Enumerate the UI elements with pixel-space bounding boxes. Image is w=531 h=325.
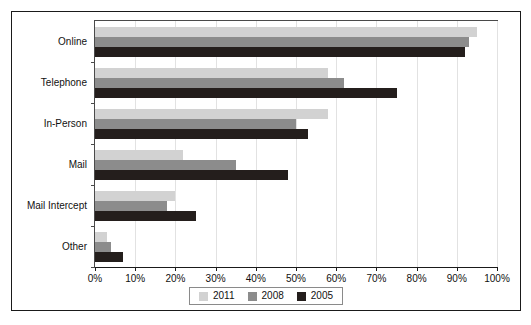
x-axis-label: 90% xyxy=(447,274,467,284)
gridline xyxy=(256,21,257,267)
bar-online-2005 xyxy=(95,47,465,57)
y-axis-tick xyxy=(91,226,95,227)
x-axis-label: 70% xyxy=(366,274,386,284)
bar-online-2008 xyxy=(95,37,469,47)
legend-swatch-icon xyxy=(248,292,257,301)
bar-mail-2008 xyxy=(95,160,236,170)
x-axis-tick xyxy=(417,267,418,271)
x-axis-label: 10% xyxy=(125,274,145,284)
legend-entry-2008[interactable]: 2008 xyxy=(248,291,284,301)
bar-telephone-2008 xyxy=(95,78,344,88)
x-axis-tick xyxy=(376,267,377,271)
y-axis-tick xyxy=(91,62,95,63)
x-axis-label: 50% xyxy=(286,274,306,284)
y-axis-tick xyxy=(91,144,95,145)
x-axis-label: 40% xyxy=(246,274,266,284)
bar-other-2011 xyxy=(95,232,107,242)
x-axis-label: 80% xyxy=(407,274,427,284)
bar-in-person-2005 xyxy=(95,129,308,139)
bar-mail-intercept-2005 xyxy=(95,211,196,221)
bar-mail-2005 xyxy=(95,170,288,180)
gridline xyxy=(296,21,297,267)
legend-label: 2008 xyxy=(262,291,284,301)
gridline xyxy=(135,21,136,267)
chart-figure: OnlineTelephoneIn-PersonMailMail Interce… xyxy=(11,11,521,311)
y-axis-label-mail-intercept: Mail Intercept xyxy=(27,201,87,211)
gridline xyxy=(417,21,418,267)
x-axis-tick xyxy=(95,267,96,271)
legend-label: 2005 xyxy=(311,291,333,301)
gridline xyxy=(376,21,377,267)
y-axis-tick xyxy=(91,185,95,186)
legend-swatch-icon xyxy=(199,292,208,301)
x-axis-tick xyxy=(497,267,498,271)
bar-in-person-2011 xyxy=(95,109,328,119)
chart-legend: 201120082005 xyxy=(189,287,343,305)
bar-group xyxy=(95,27,497,57)
legend-swatch-icon xyxy=(297,292,306,301)
gridline xyxy=(457,21,458,267)
x-axis-tick xyxy=(457,267,458,271)
legend-entry-2011[interactable]: 2011 xyxy=(199,291,235,301)
y-axis-label-in-person: In-Person xyxy=(44,119,87,129)
bar-online-2011 xyxy=(95,27,477,37)
legend-label: 2011 xyxy=(213,291,235,301)
bar-group xyxy=(95,68,497,98)
x-axis-label: 20% xyxy=(165,274,185,284)
x-axis-label: 60% xyxy=(326,274,346,284)
bar-other-2008 xyxy=(95,242,111,252)
y-axis-label-other: Other xyxy=(62,242,87,252)
x-axis-tick xyxy=(175,267,176,271)
y-axis-label-online: Online xyxy=(58,37,87,47)
x-axis-tick xyxy=(216,267,217,271)
gridline xyxy=(497,21,498,267)
bar-group xyxy=(95,109,497,139)
bar-group xyxy=(95,150,497,180)
gridline xyxy=(175,21,176,267)
x-axis-label: 30% xyxy=(206,274,226,284)
y-axis-label-mail: Mail xyxy=(69,160,87,170)
bar-other-2005 xyxy=(95,252,123,262)
gridline xyxy=(216,21,217,267)
y-axis-tick xyxy=(91,103,95,104)
legend-entry-2005[interactable]: 2005 xyxy=(297,291,333,301)
bar-group xyxy=(95,191,497,221)
gridline xyxy=(336,21,337,267)
bar-mail-intercept-2011 xyxy=(95,191,175,201)
bar-in-person-2008 xyxy=(95,119,296,129)
bar-group xyxy=(95,232,497,262)
bar-mail-intercept-2008 xyxy=(95,201,167,211)
x-axis-label: 100% xyxy=(484,274,510,284)
bar-telephone-2005 xyxy=(95,88,397,98)
bar-mail-2011 xyxy=(95,150,183,160)
y-axis-label-telephone: Telephone xyxy=(41,78,87,88)
plot-area: OnlineTelephoneIn-PersonMailMail Interce… xyxy=(94,20,498,268)
x-axis-tick xyxy=(135,267,136,271)
x-axis-tick xyxy=(336,267,337,271)
x-axis-tick xyxy=(296,267,297,271)
x-axis-label: 0% xyxy=(88,274,102,284)
bar-telephone-2011 xyxy=(95,68,328,78)
x-axis-tick xyxy=(256,267,257,271)
